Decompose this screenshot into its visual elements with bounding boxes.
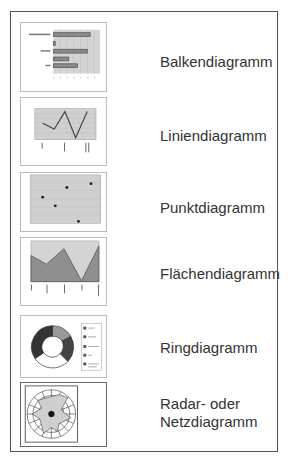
radar-chart-thumbnail [20,382,107,447]
label-line-chart: Liniendiagramm [160,127,267,145]
bar-chart-icon [21,23,106,91]
area-chart-icon [21,238,106,305]
area-chart-thumbnail [20,237,107,306]
doughnut-chart-thumbnail [20,315,107,378]
radar-chart-icon [21,383,106,446]
label-scatter-chart: Punktdiagramm [160,199,265,217]
doughnut-chart-icon [21,316,106,377]
bar-chart-thumbnail [20,22,107,92]
label-area-chart: Flächendiagramm [160,265,280,283]
scatter-chart-icon [21,173,106,231]
label-radar-chart: Radar- oder Netzdiagramm [160,395,258,431]
footer-artifact [10,455,278,464]
label-doughnut-chart: Ringdiagramm [160,339,258,357]
label-bar-chart: Balkendiagramm [160,53,273,71]
scatter-chart-thumbnail [20,172,107,232]
line-chart-thumbnail [20,97,107,166]
line-chart-icon [21,98,106,165]
